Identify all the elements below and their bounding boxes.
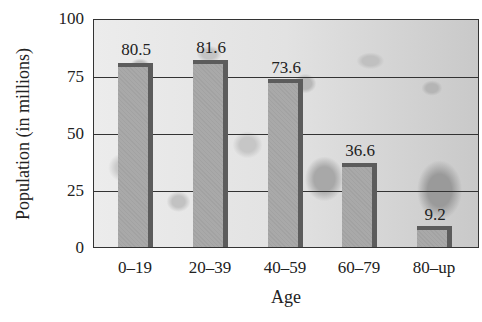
bar-20-39 — [193, 60, 228, 247]
x-tick-0-19: 0–19 — [95, 259, 175, 277]
bar-0-19 — [118, 63, 153, 247]
bar-80-up — [417, 226, 452, 247]
x-axis-label: Age — [246, 287, 326, 307]
y-tick-25: 25 — [44, 182, 84, 200]
y-tick-0: 0 — [44, 239, 84, 257]
data-label-20-39: 81.6 — [181, 39, 241, 57]
data-label-80-up: 9.2 — [405, 206, 465, 224]
plot-area: 80.5 81.6 73.6 36.6 9.2 — [93, 19, 479, 248]
data-label-40-59: 73.6 — [256, 59, 316, 77]
data-label-0-19: 80.5 — [106, 41, 166, 59]
x-tick-60-79: 60–79 — [319, 259, 399, 277]
y-tick-75: 75 — [44, 68, 84, 86]
x-tick-80-up: 80–up — [394, 259, 474, 277]
y-axis-label: Population (in millions) — [13, 48, 33, 220]
x-tick-40-59: 40–59 — [245, 259, 325, 277]
bar-60-79 — [342, 163, 377, 247]
x-tick-20-39: 20–39 — [170, 259, 250, 277]
data-label-60-79: 36.6 — [330, 142, 390, 160]
bar-40-59 — [268, 79, 303, 247]
y-tick-100: 100 — [44, 10, 84, 28]
y-tick-50: 50 — [44, 125, 84, 143]
